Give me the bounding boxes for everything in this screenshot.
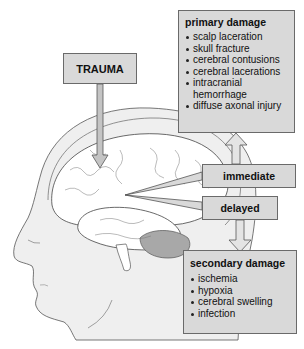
- primary-damage-box: primary damage scalp laceration skull fr…: [178, 10, 295, 133]
- list-item: diffuse axonal injury: [185, 100, 294, 112]
- list-item: intracranial hemorrhage: [185, 77, 263, 100]
- list-item: cerebral swelling: [190, 296, 296, 308]
- list-item: scalp laceration: [185, 31, 294, 43]
- delayed-box: delayed: [202, 196, 278, 220]
- list-item: infection: [190, 308, 296, 320]
- secondary-damage-box: secondary damage ischemia hypoxia cerebr…: [183, 250, 297, 334]
- primary-damage-list: scalp laceration skull fracture cerebral…: [185, 31, 294, 112]
- secondary-damage-list: ischemia hypoxia cerebral swelling infec…: [190, 273, 296, 319]
- trauma-label: TRAUMA: [76, 63, 124, 75]
- primary-damage-title: primary damage: [185, 16, 294, 28]
- list-item: cerebral lacerations: [185, 66, 294, 78]
- list-item: skull fracture: [185, 43, 294, 55]
- immediate-box: immediate: [202, 164, 296, 188]
- immediate-label: immediate: [223, 170, 275, 182]
- trauma-box: TRAUMA: [63, 53, 137, 84]
- list-item: ischemia: [190, 273, 296, 285]
- secondary-damage-title: secondary damage: [190, 257, 296, 269]
- list-item: hypoxia: [190, 285, 296, 297]
- list-item: cerebral contusions: [185, 54, 294, 66]
- delayed-label: delayed: [220, 202, 259, 214]
